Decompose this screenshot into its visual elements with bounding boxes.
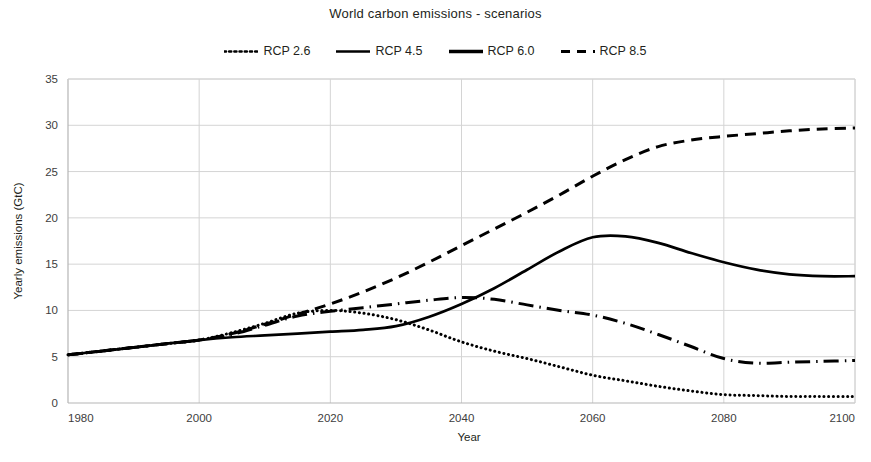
x-tick-label: 2060: [580, 412, 606, 424]
plot-area: 0510152025303519802000202020402060208021…: [0, 0, 871, 462]
x-axis-title: Year: [457, 431, 480, 443]
gridlines: [68, 79, 855, 403]
x-tick-label: 2000: [186, 412, 212, 424]
y-axis-title: Yearly emissions (GtC): [12, 182, 24, 299]
y-tick-label: 10: [45, 304, 58, 316]
y-tick-label: 20: [45, 212, 58, 224]
x-tick-label: 2080: [711, 412, 737, 424]
y-tick-label: 35: [45, 73, 58, 85]
y-tick-label: 15: [45, 258, 58, 270]
x-tick-label: 2100: [829, 412, 855, 424]
y-tick-label: 25: [45, 166, 58, 178]
y-tick-label: 0: [52, 397, 58, 409]
x-tick-label: 2020: [318, 412, 344, 424]
y-tick-label: 5: [52, 351, 58, 363]
chart-container: World carbon emissions - scenarios RCP 2…: [0, 0, 871, 462]
y-tick-label: 30: [45, 119, 58, 131]
x-tick-label: 1980: [68, 412, 94, 424]
x-tick-label: 2040: [449, 412, 475, 424]
